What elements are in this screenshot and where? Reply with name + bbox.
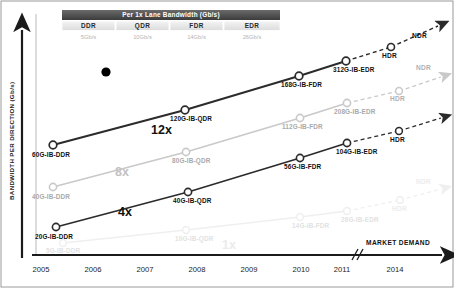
series-8x-label-fdr: 112G-IB-FDR [282, 123, 323, 130]
series-8x-point-fdr [296, 114, 303, 121]
legend-col-value-ddr: 5Gb/s [81, 34, 97, 40]
series-1x-label-hdr: HDR [392, 205, 407, 212]
legend-col-value-fdr: 14Gb/s [187, 34, 206, 40]
series-12x-point-hdr [388, 44, 395, 51]
series-8x-label-qdr: 80G-IB-QDR [172, 157, 211, 165]
series-4x-point-qdr [184, 188, 191, 195]
series-12x-label-edr: 312G-IB-EDR [333, 66, 375, 73]
series-12x-label-qdr: 120G-IB-QDR [170, 115, 212, 123]
series-12x-label-ndr: NDR [412, 32, 427, 39]
series-4x-label-hdr: HDR [390, 136, 405, 143]
series-8x-label-hdr: HDR [390, 95, 405, 102]
series-12x-point-ddr [49, 141, 57, 149]
legend-col-name-qdr: QDR [135, 22, 150, 30]
series-1x-point-hdr [397, 197, 403, 203]
series-8x-label-edr: 208G-IB-EDR [334, 108, 376, 115]
series-4x-point-hdr [396, 128, 403, 135]
x-tick-2008: 2008 [189, 265, 206, 274]
series-8x-point-edr [343, 99, 350, 106]
series-4x-label-ddr: 20G-IB-DDR [35, 233, 73, 240]
legend-title: Per 1x Lane Bandwidth (Gb/s) [122, 11, 220, 19]
x-tick-2006: 2006 [85, 265, 102, 274]
legend-col-value-edr: 26Gb/s [243, 34, 262, 40]
x-axis-title: MARKET DEMAND [366, 239, 430, 246]
legend-col-name-edr: EDR [245, 22, 260, 29]
series-1x-label-qdr: 10G-IB-QDR [175, 235, 214, 243]
series-1x-multiplier: 1x [222, 238, 236, 252]
series-1x-point-fdr [297, 214, 304, 221]
y-axis-title: BANDWIDTH PER DIRECTION (Gb/s) [8, 82, 15, 200]
series-4x-point-fdr [296, 154, 303, 161]
x-tick-2009: 2009 [241, 265, 258, 274]
series-12x-label-ddr: 60G-IB-DDR [32, 151, 70, 158]
series-1x-label-ddr: 5G-IB-DDR [46, 247, 81, 254]
legend-col-name-ddr: DDR [81, 22, 96, 29]
series-1x-point-edr [344, 208, 351, 215]
series-4x-multiplier: 4x [118, 205, 132, 219]
series-12x-point-fdr [295, 72, 303, 80]
series-12x-multiplier: 12x [151, 123, 172, 137]
series-12x-label-fdr: 168G-IB-FDR [281, 81, 322, 88]
legend-col-value-qdr: 10Gb/s [133, 34, 152, 40]
legend-col-name-fdr: FDR [189, 22, 203, 29]
series-1x-label-fdr: 14G-IB-FDR [292, 222, 330, 229]
series-8x-label-ddr: 40G-IB-DDR [32, 193, 70, 200]
series-1x-label-edr: 26G-IB-EDR [341, 216, 379, 223]
series-4x-point-edr [343, 139, 350, 146]
series-4x-point-ddr [52, 223, 59, 230]
series-8x-point-ddr [49, 183, 56, 190]
x-tick-2010: 2010 [293, 265, 310, 274]
series-1x-point-qdr [183, 227, 190, 234]
x-tick-2011: 2011 [334, 265, 350, 274]
series-8x-point-hdr [396, 88, 403, 95]
series-1x-label-ndr: NDR [416, 178, 431, 185]
x-tick-2005: 2005 [33, 265, 50, 274]
series-4x-label-fdr: 56G-IB-FDR [284, 163, 322, 170]
series-12x-point-edr [342, 57, 350, 65]
infiniband-roadmap-chart: BANDWIDTH PER DIRECTION (Gb/s) MARKET DE… [0, 0, 454, 288]
series-1x-point-ddr [60, 240, 67, 247]
series-8x-label-ndr: NDR [416, 64, 431, 71]
x-tick-2014: 2014 [387, 265, 404, 274]
series-12x-label-hdr: HDR [382, 52, 397, 59]
series-12x-point-qdr [181, 106, 189, 114]
series-4x-label-edr: 104G-IB-EDR [336, 148, 378, 155]
series-8x-point-qdr [182, 148, 189, 155]
series-8x-multiplier: 8x [115, 165, 129, 179]
x-tick-2007: 2007 [137, 265, 154, 274]
series-4x-label-qdr: 40G-IB-QDR [173, 197, 212, 205]
anomaly-dot-marker [101, 67, 110, 76]
